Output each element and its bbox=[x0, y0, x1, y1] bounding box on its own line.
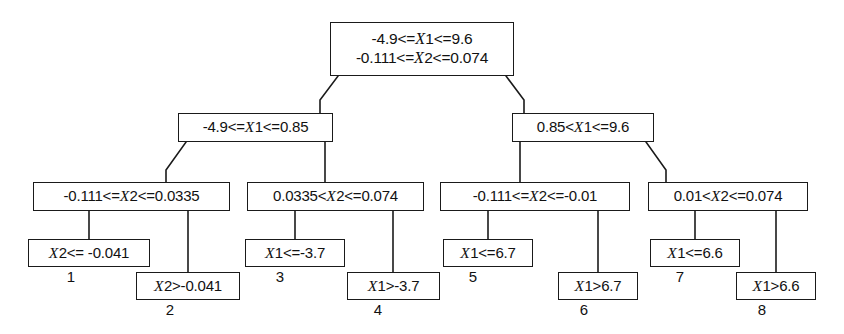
leaf-6-number: 6 bbox=[574, 301, 594, 318]
leaf-1-label: X2<= -0.041 bbox=[49, 244, 129, 262]
edge-splitright-to-rr bbox=[646, 142, 666, 182]
leaf-3-number: 3 bbox=[270, 268, 290, 285]
leaf-2-label: X2>-0.041 bbox=[154, 277, 222, 295]
variable-name: X bbox=[460, 244, 470, 261]
variable-name: X bbox=[265, 244, 275, 261]
leaf-8-label: X1>6.6 bbox=[753, 277, 800, 295]
split-right-left-label: -0.111<=X2<=-0.01 bbox=[473, 187, 598, 205]
tree-leaf-3[interactable]: X1<=-3.7 bbox=[245, 239, 345, 267]
leaf-7-label: X1<=6.6 bbox=[667, 244, 722, 262]
variable-name: X bbox=[414, 49, 424, 66]
tree-node-split-right[interactable]: 0.85<X1<=9.6 bbox=[512, 113, 654, 142]
tree-leaf-4[interactable]: X1>-3.7 bbox=[347, 272, 440, 300]
leaf-1-number: 1 bbox=[61, 268, 81, 285]
tree-node-split-right-right[interactable]: 0.01<X2<=0.074 bbox=[648, 182, 808, 211]
variable-name: X bbox=[711, 187, 721, 204]
tree-leaf-8[interactable]: X1>6.6 bbox=[736, 272, 816, 300]
split-right-label: 0.85<X1<=9.6 bbox=[537, 118, 629, 136]
leaf-5-number: 5 bbox=[463, 268, 483, 285]
variable-name: X bbox=[49, 244, 59, 261]
tree-leaf-1[interactable]: X2<= -0.041 bbox=[28, 239, 150, 267]
tree-leaf-2[interactable]: X2>-0.041 bbox=[136, 272, 240, 300]
tree-node-root[interactable]: -4.9<=X1<=9.6 -0.111<=X2<=0.074 bbox=[330, 22, 514, 76]
leaf-2-number: 2 bbox=[160, 301, 180, 318]
leaf-8-number: 8 bbox=[752, 301, 772, 318]
variable-name: X bbox=[368, 277, 378, 294]
split-right-right-label: 0.01<X2<=0.074 bbox=[674, 187, 783, 205]
tree-node-split-left[interactable]: -4.9<=X1<=0.85 bbox=[178, 113, 333, 142]
tree-leaf-7[interactable]: X1<=6.6 bbox=[650, 239, 740, 267]
tree-node-split-left-right[interactable]: 0.0335<X2<=0.074 bbox=[247, 182, 424, 211]
leaf-5-label: X1<=6.7 bbox=[460, 244, 515, 262]
variable-name: X bbox=[415, 30, 425, 47]
split-left-left-label: -0.111<=X2<=0.0335 bbox=[63, 187, 199, 205]
tree-node-split-left-left[interactable]: -0.111<=X2<=0.0335 bbox=[33, 182, 230, 211]
decision-tree-diagram: -4.9<=X1<=9.6 -0.111<=X2<=0.074 -4.9<=X1… bbox=[0, 0, 844, 334]
variable-name: X bbox=[753, 277, 763, 294]
variable-name: X bbox=[326, 187, 336, 204]
variable-name: X bbox=[575, 277, 585, 294]
edge-root-to-right bbox=[506, 76, 524, 113]
edge-root-to-left bbox=[320, 76, 338, 113]
variable-name: X bbox=[667, 244, 677, 261]
tree-leaf-6[interactable]: X1>6.7 bbox=[558, 272, 638, 300]
variable-name: X bbox=[245, 118, 255, 135]
root-condition-line-2: -0.111<=X2<=0.074 bbox=[356, 49, 488, 68]
variable-name: X bbox=[574, 118, 584, 135]
tree-node-split-right-left[interactable]: -0.111<=X2<=-0.01 bbox=[440, 182, 630, 211]
edge-splitleft-to-ll bbox=[166, 142, 186, 182]
leaf-4-number: 4 bbox=[368, 301, 388, 318]
leaf-3-label: X1<=-3.7 bbox=[265, 244, 325, 262]
tree-leaf-5[interactable]: X1<=6.7 bbox=[443, 239, 533, 267]
split-left-right-label: 0.0335<X2<=0.074 bbox=[273, 187, 398, 205]
leaf-7-number: 7 bbox=[670, 268, 690, 285]
variable-name: X bbox=[154, 277, 164, 294]
split-left-label: -4.9<=X1<=0.85 bbox=[203, 118, 309, 136]
variable-name: X bbox=[120, 187, 130, 204]
root-condition-line-1: -4.9<=X1<=9.6 bbox=[372, 30, 473, 49]
variable-name: X bbox=[529, 187, 539, 204]
leaf-6-label: X1>6.7 bbox=[575, 277, 622, 295]
leaf-4-label: X1>-3.7 bbox=[368, 277, 420, 295]
